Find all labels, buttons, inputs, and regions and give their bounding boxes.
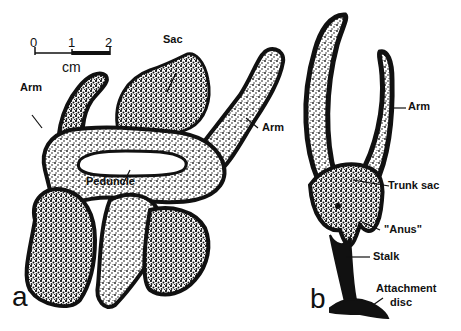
label-trunk-sac: Trunk sac — [388, 180, 439, 191]
label-sac: Sac — [163, 34, 183, 45]
label-disc: disc — [390, 297, 412, 308]
panel-letter-b: b — [310, 285, 326, 313]
label-arm: Arm — [408, 101, 430, 112]
scale-tick-1: 1 — [68, 36, 75, 49]
specimen-a — [27, 49, 284, 307]
label-arm-left: Arm — [20, 82, 42, 93]
label-peduncle: Peduncle — [86, 176, 135, 187]
specimen-b — [306, 15, 392, 318]
label-arm-right: Arm — [262, 122, 284, 133]
panel-letter-a: a — [12, 283, 28, 311]
scale-unit: cm — [62, 60, 81, 74]
label-attachment: Attachment — [376, 283, 437, 294]
anus-dot — [335, 203, 341, 209]
scale-tick-2: 2 — [105, 36, 112, 49]
label-anus: "Anus" — [384, 224, 422, 235]
label-stalk: Stalk — [373, 251, 399, 262]
scale-tick-0: 0 — [30, 36, 37, 49]
